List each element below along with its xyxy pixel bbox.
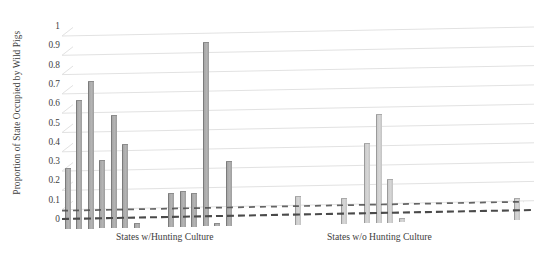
bar bbox=[214, 223, 220, 226]
y-tick-label: 0.8 bbox=[48, 61, 60, 70]
y-tick-label: 0.4 bbox=[48, 138, 60, 147]
y-tick-label: 0.2 bbox=[48, 177, 60, 186]
x-axis-dashed-baseline bbox=[62, 208, 534, 220]
bar-series bbox=[62, 27, 534, 220]
bar bbox=[134, 223, 140, 228]
group-label-no-hunting-culture: States w/o Hunting Culture bbox=[327, 232, 432, 242]
y-tick-label: 0.7 bbox=[48, 80, 60, 89]
y-tick-label: 0 bbox=[55, 215, 60, 224]
y-tick-label: 0.5 bbox=[48, 119, 60, 128]
bar bbox=[203, 42, 209, 226]
y-tick-label: 0.1 bbox=[48, 196, 60, 205]
bar bbox=[376, 114, 382, 223]
plot-area bbox=[62, 18, 534, 220]
y-tick-label: 1 bbox=[55, 22, 60, 31]
bar bbox=[88, 81, 94, 229]
y-tick-label: 0.3 bbox=[48, 157, 60, 166]
y-tick-label: 0.9 bbox=[48, 42, 60, 51]
y-tick-label: 0.6 bbox=[48, 100, 60, 109]
y-axis-title: Proportion of State Occupied by Wild Pig… bbox=[13, 7, 22, 219]
axis-line bbox=[62, 210, 534, 219]
group-label-hunting-culture: States w/Hunting Culture bbox=[116, 232, 214, 242]
y-axis-tick-labels: 00.10.20.30.40.50.60.70.80.91 bbox=[28, 0, 60, 253]
wild-pigs-bar-chart: Proportion of State Occupied by Wild Pig… bbox=[0, 0, 541, 253]
